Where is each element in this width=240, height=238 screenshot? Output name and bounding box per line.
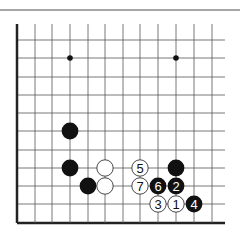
move-number: 2 [172, 179, 179, 194]
move-number: 1 [172, 197, 179, 212]
move-number: 4 [190, 197, 197, 212]
black-stone [168, 160, 185, 177]
white-stone-1: 1 [168, 196, 184, 212]
white-stone [97, 178, 113, 194]
go-board: 5762314 [0, 0, 240, 238]
white-stone-circle [97, 178, 113, 194]
star-point [173, 55, 179, 61]
black-stone-circle [80, 178, 97, 195]
black-stone-2: 2 [168, 178, 185, 195]
black-stone-circle [168, 160, 185, 177]
star-point [67, 55, 73, 61]
stones: 5762314 [62, 123, 203, 213]
white-stone-3: 3 [150, 196, 166, 212]
move-number: 7 [136, 179, 143, 194]
move-number: 5 [136, 161, 143, 176]
black-stone-circle [62, 123, 79, 140]
move-number: 3 [154, 197, 161, 212]
black-stone [62, 160, 79, 177]
white-stone-circle [97, 160, 113, 176]
black-stone-circle [62, 160, 79, 177]
move-number: 6 [154, 179, 161, 194]
black-stone-4: 4 [186, 196, 203, 213]
white-stone-5: 5 [132, 160, 148, 176]
grid-lines [17, 24, 225, 223]
black-stone-6: 6 [150, 178, 167, 195]
black-stone [62, 123, 79, 140]
white-stone-7: 7 [132, 178, 148, 194]
black-stone [80, 178, 97, 195]
white-stone [97, 160, 113, 176]
